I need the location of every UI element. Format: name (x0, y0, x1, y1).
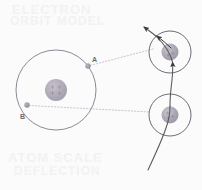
main-atom (16, 50, 96, 130)
main-atom-nucleus (45, 79, 67, 101)
callout-lines (29, 49, 153, 112)
electron-b (24, 102, 29, 107)
inset-atom-top (149, 31, 191, 73)
inset-atom-top-nucleus (162, 44, 179, 61)
connector-line-a (90, 49, 153, 66)
diagram-canvas (0, 0, 202, 190)
label-point-b: B (20, 113, 25, 120)
trajectory-middle-segment (170, 62, 173, 106)
electron-a (85, 63, 90, 68)
atom-scattering-figure: ELECTRON ORBIT MODEL ATOM SCALE DEFLECTI… (0, 0, 202, 190)
label-point-a: A (92, 56, 97, 63)
